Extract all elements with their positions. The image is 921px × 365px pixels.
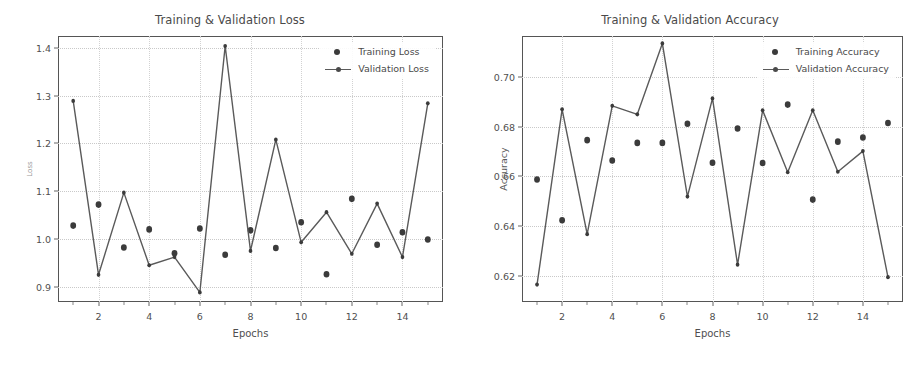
x-tick-minor [123,302,124,305]
data-point-marker [425,236,431,243]
legend-marker-icon [763,47,789,56]
x-tick-label: 10 [295,311,307,322]
x-tick-minor [587,302,588,305]
data-point-marker [584,137,590,144]
x-tick-label: 8 [709,311,715,322]
data-point-marker [374,241,380,248]
x-tick-mark [662,302,663,306]
data-point-marker [274,138,278,142]
data-point-marker [585,232,589,236]
legend-label-validation-loss: Validation Loss [358,63,429,74]
data-point-marker [711,96,715,100]
legend-label-training-accuracy: Training Accuracy [796,46,880,57]
data-point-marker [121,244,127,251]
y-tick-mark [518,126,522,127]
x-tick-minor [326,302,327,305]
data-point-marker [401,255,405,259]
x-tick-minor [275,302,276,305]
data-point-marker [96,201,102,208]
x-tick-mark [612,302,613,306]
y-tick-label: 1.0 [36,233,51,244]
x-tick-label: 14 [396,311,408,322]
data-point-marker [735,125,741,132]
x-tick-mark [351,302,352,306]
data-point-marker [886,275,890,279]
data-point-marker [299,240,303,244]
y-tick-mark [518,77,522,78]
x-tick-mark [199,302,200,306]
x-axis-label-loss: Epochs [58,328,443,339]
data-point-marker [249,249,253,253]
x-tick-mark [301,302,302,306]
x-tick-mark [862,302,863,306]
y-axis-label-loss: Loss [26,161,34,176]
y-tick-label: 1.3 [36,90,51,101]
data-point-marker [635,112,639,116]
data-point-marker [659,140,665,147]
data-point-marker [122,191,126,195]
y-tick-mark [54,191,58,192]
x-axis-label-accuracy: Epochs [522,328,903,339]
legend-loss: Training Loss Validation Loss [320,42,436,78]
data-point-marker [223,44,227,48]
x-tick-minor [377,302,378,305]
data-point-marker [685,120,691,127]
series-line [73,46,428,292]
legend-label-validation-accuracy: Validation Accuracy [796,63,889,74]
data-point-marker [736,263,740,267]
data-point-marker [534,176,540,183]
legend-marker-icon [325,47,351,56]
y-axis-label-accuracy: Accuracy [498,147,509,190]
legend-line-icon [763,64,789,73]
data-point-marker [885,120,891,127]
data-point-marker [761,108,765,112]
data-point-marker [785,101,791,108]
x-tick-label: 12 [807,311,819,322]
y-tick-mark [54,95,58,96]
data-point-marker [173,255,177,259]
legend-accuracy: Training Accuracy Validation Accuracy [758,42,896,78]
plot-area-accuracy: 0.620.640.660.680.702468101214 Epochs Ac… [522,36,903,302]
legend-item-training-accuracy: Training Accuracy [763,46,889,57]
x-tick-mark [402,302,403,306]
x-tick-minor [837,302,838,305]
data-point-marker [70,222,76,229]
x-tick-minor [637,302,638,305]
figure-canvas: Training & Validation Loss 0.91.01.11.21… [0,0,921,365]
legend-label-training-loss: Training Loss [358,46,419,57]
data-point-marker [375,202,379,206]
y-tick-label: 0.68 [494,121,515,132]
x-tick-mark [149,302,150,306]
data-point-marker [325,210,329,214]
data-point-marker [197,225,203,232]
y-tick-mark [518,226,522,227]
legend-item-validation-loss: Validation Loss [325,63,429,74]
data-point-marker [426,101,430,105]
x-tick-mark [562,302,563,306]
x-tick-minor [225,302,226,305]
x-tick-minor [687,302,688,305]
data-point-marker [710,159,716,166]
x-tick-mark [812,302,813,306]
data-point-marker [860,134,866,141]
data-point-marker [198,290,202,294]
y-tick-label: 1.2 [36,138,51,149]
data-point-marker [349,196,355,203]
x-tick-mark [712,302,713,306]
chart-panel-accuracy: Training & Validation Accuracy 0.620.640… [460,0,920,365]
data-point-marker [535,283,539,287]
x-tick-label: 4 [609,311,615,322]
data-point-marker [661,41,665,45]
data-point-marker [786,170,790,174]
chart-title-accuracy: Training & Validation Accuracy [460,13,920,27]
y-tick-mark [54,286,58,287]
legend-line-icon [325,64,351,73]
data-point-marker [71,99,75,103]
y-tick-mark [54,47,58,48]
legend-item-validation-accuracy: Validation Accuracy [763,63,889,74]
data-point-marker [400,229,406,236]
data-point-marker [273,245,279,252]
x-tick-label: 6 [197,311,203,322]
data-point-marker [861,149,865,153]
x-tick-label: 10 [757,311,769,322]
